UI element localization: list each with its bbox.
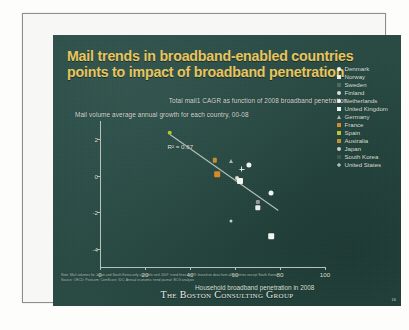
y-axis-line — [100, 121, 101, 267]
legend-item: Japan — [337, 145, 395, 153]
legend-label: Finland — [345, 89, 365, 96]
data-point — [229, 159, 233, 163]
x-tick — [235, 267, 236, 270]
scanned-page: Mail trends in broadband-enabled countri… — [0, 0, 409, 330]
data-point — [255, 200, 259, 204]
x-axis-line — [100, 267, 325, 268]
data-point — [239, 167, 244, 172]
x-tick — [280, 267, 281, 270]
legend-item: Sweden — [337, 81, 395, 89]
chart-legend: DenmarkNorwaySwedenFinlandNetherlandsUni… — [337, 65, 395, 169]
scatter-plot: 020406080100 20-2-4 R² = 0.67 Household … — [100, 121, 330, 273]
legend-label: France — [345, 121, 364, 128]
y-tick-label: 0 — [88, 172, 98, 179]
legend-label: Spain — [345, 129, 361, 136]
legend-label: Germany — [345, 113, 370, 120]
data-point — [214, 171, 220, 177]
legend-item: France — [337, 121, 395, 129]
legend-label: United States — [345, 161, 382, 168]
legend-item: Finland — [337, 89, 395, 97]
data-point — [229, 220, 232, 223]
legend-marker-icon — [337, 99, 341, 103]
y-tick-label: -4 — [88, 245, 98, 252]
footnote-line-2: Source: OECD; Postcom; ComScore; IDC; An… — [61, 278, 361, 282]
legend-label: South Korea — [345, 153, 379, 160]
legend-label: Netherlands — [345, 97, 378, 104]
legend-item: South Korea — [337, 153, 395, 161]
page-frame: Mail trends in broadband-enabled countri… — [22, 13, 386, 303]
data-point — [269, 191, 274, 196]
slide-title: Mail trends in broadband-enabled countri… — [67, 49, 377, 80]
r-squared-annotation: R² = 0.67 — [168, 143, 194, 150]
legend-item: Spain — [337, 129, 395, 137]
legend-label: Norway — [345, 73, 366, 80]
legend-item: United States — [337, 161, 395, 169]
legend-marker-icon — [337, 91, 341, 95]
legend-label: Denmark — [345, 65, 370, 72]
legend-marker-icon — [337, 83, 341, 87]
x-tick — [190, 267, 191, 270]
legend-marker-icon — [337, 163, 341, 167]
data-point — [255, 205, 260, 210]
presentation-slide: Mail trends in broadband-enabled countri… — [53, 35, 401, 306]
legend-marker-icon — [337, 107, 341, 111]
data-point — [268, 233, 274, 239]
legend-item: Denmark — [337, 65, 395, 73]
legend-marker-icon — [337, 115, 341, 119]
legend-marker-icon — [337, 123, 341, 127]
legend-item: Netherlands — [337, 97, 395, 105]
data-point — [213, 158, 217, 162]
data-point — [167, 131, 172, 136]
data-point — [246, 162, 251, 167]
legend-marker-icon — [337, 139, 341, 143]
legend-item: Australia — [337, 137, 395, 145]
legend-marker-icon — [337, 155, 341, 159]
x-tick — [100, 267, 101, 270]
page-number: 16 — [392, 297, 396, 302]
y-tick-label: -2 — [88, 209, 98, 216]
legend-item: Germany — [337, 113, 395, 121]
legend-marker-icon — [337, 67, 341, 71]
y-tick-label: 2 — [88, 136, 98, 143]
data-point — [237, 178, 243, 184]
bcg-logo: The Boston Consulting Group — [53, 289, 401, 300]
legend-label: Japan — [345, 145, 362, 152]
legend-item: United Kingdom — [337, 105, 395, 113]
legend-label: Australia — [345, 137, 369, 144]
legend-marker-icon — [337, 147, 341, 151]
legend-label: Sweden — [345, 81, 367, 88]
footnote: Note: Mail volumes for Japan and South K… — [61, 273, 361, 282]
legend-item: Norway — [337, 73, 395, 81]
x-tick — [145, 267, 146, 270]
chart-note: Mail volume average annual growth for ea… — [75, 111, 335, 118]
legend-marker-icon — [337, 75, 341, 79]
legend-marker-icon — [337, 131, 341, 135]
legend-label: United Kingdom — [345, 105, 388, 112]
x-tick — [325, 267, 326, 270]
